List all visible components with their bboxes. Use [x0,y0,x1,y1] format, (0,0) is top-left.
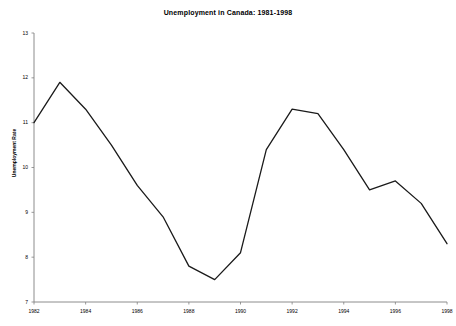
y-tick-label: 10 [12,164,28,170]
y-tick-label: 11 [12,119,28,125]
x-tick-label: 1994 [329,308,359,314]
x-tick-label: 1988 [174,308,204,314]
plot-area [0,0,456,326]
axis-lines [34,33,447,302]
x-tick-label: 1998 [432,308,456,314]
axis-ticks [32,33,448,305]
y-tick-label: 13 [12,30,28,36]
x-tick-label: 1984 [71,308,101,314]
x-tick-label: 1982 [19,308,49,314]
x-tick-label: 1996 [380,308,410,314]
x-tick-label: 1986 [122,308,152,314]
chart-container: Unemployment in Canada: 1981-1998 Unempl… [0,0,456,326]
y-tick-label: 7 [12,299,28,305]
y-tick-label: 9 [12,209,28,215]
x-tick-label: 1992 [277,308,307,314]
x-tick-label: 1990 [226,308,256,314]
y-tick-label: 12 [12,74,28,80]
y-tick-label: 8 [12,254,28,260]
data-series-line [34,82,447,279]
